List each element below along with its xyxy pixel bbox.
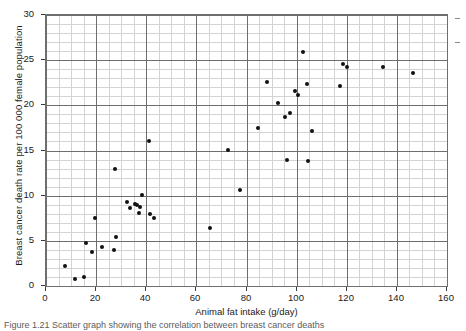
data-point: [288, 111, 292, 115]
x-axis-label: Animal fat intake (g/day): [45, 306, 448, 317]
y-axis-tick: [41, 240, 45, 241]
y-axis-tick-label: 20: [0, 98, 34, 109]
gridline-major-horizontal: [46, 105, 447, 106]
data-point: [137, 211, 141, 215]
data-point: [265, 80, 269, 84]
data-point: [73, 277, 77, 281]
y-axis-tick-label: 5: [0, 234, 34, 245]
data-point: [152, 216, 156, 220]
x-axis-tick-label: 120: [326, 292, 366, 303]
x-axis-tick-label: 100: [276, 292, 316, 303]
y-axis-tick: [41, 59, 45, 60]
data-point: [63, 264, 67, 268]
data-point: [114, 235, 118, 239]
data-point: [125, 200, 129, 204]
gridline-major-horizontal: [46, 196, 447, 197]
x-axis-tick-label: 140: [376, 292, 416, 303]
y-axis-tick: [41, 14, 45, 15]
gridline-major-horizontal: [46, 241, 447, 242]
gridline-major-horizontal: [46, 15, 447, 16]
plot-area: [45, 14, 448, 287]
data-point: [148, 212, 152, 216]
data-point: [305, 82, 309, 86]
y-axis-tick: [41, 195, 45, 196]
data-point: [208, 226, 212, 230]
x-axis-tick: [296, 287, 297, 291]
data-point: [226, 148, 230, 152]
data-point: [310, 129, 314, 133]
data-point: [147, 139, 151, 143]
y-axis-tick: [41, 150, 45, 151]
figure-caption: Figure 1.21 Scatter graph showing the co…: [4, 320, 462, 331]
gridline-major-horizontal: [46, 60, 447, 61]
y-axis-tick-label: 10: [0, 189, 34, 200]
data-point: [276, 101, 280, 105]
x-axis-tick: [195, 287, 196, 291]
x-axis-tick: [246, 287, 247, 291]
data-point: [100, 245, 104, 249]
y-axis-tick: [41, 104, 45, 105]
gridline-major-horizontal: [46, 151, 447, 152]
y-axis-tick-label: 30: [0, 8, 34, 19]
data-point: [128, 206, 132, 210]
data-point: [112, 248, 116, 252]
data-point: [113, 167, 117, 171]
x-axis-tick: [95, 287, 96, 291]
x-axis-tick: [45, 287, 46, 291]
data-point: [285, 158, 289, 162]
x-axis-tick-label: 80: [226, 292, 266, 303]
data-point: [256, 126, 260, 130]
data-point: [84, 241, 88, 245]
y-axis-tick-label: 15: [0, 144, 34, 155]
data-point: [283, 115, 287, 119]
gridline-minor-vertical: [447, 15, 448, 286]
data-point: [138, 205, 142, 209]
x-axis-tick-label: 0: [25, 292, 65, 303]
data-point: [82, 275, 86, 279]
x-axis-tick: [346, 287, 347, 291]
y-axis-tick-label: 0: [0, 279, 34, 290]
x-axis-tick-label: 60: [175, 292, 215, 303]
data-point: [90, 250, 94, 254]
x-axis-tick-label: 20: [75, 292, 115, 303]
data-point: [238, 188, 242, 192]
x-axis-tick: [396, 287, 397, 291]
y-axis-tick-label: 25: [0, 53, 34, 64]
x-axis-tick: [145, 287, 146, 291]
data-point: [411, 71, 415, 75]
x-axis-tick: [446, 287, 447, 291]
edge-tick-mark: [455, 18, 460, 19]
gridline-major-vertical: [447, 15, 448, 286]
data-point: [301, 50, 305, 54]
x-axis-tick-label: 40: [125, 292, 165, 303]
x-axis-tick-label: 160: [426, 292, 466, 303]
y-axis-tick: [41, 285, 45, 286]
edge-tick-mark: [455, 42, 460, 43]
